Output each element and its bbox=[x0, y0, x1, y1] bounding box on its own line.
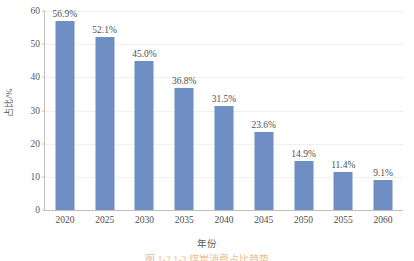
bar-group: 23.6%2045 bbox=[244, 11, 284, 210]
bar[interactable] bbox=[254, 132, 273, 210]
bar[interactable] bbox=[95, 37, 114, 210]
bar[interactable] bbox=[175, 88, 194, 210]
bar-value-label: 11.4% bbox=[331, 160, 355, 170]
y-tick-label: 60 bbox=[31, 6, 41, 16]
x-tick-label: 2030 bbox=[135, 215, 154, 225]
bar[interactable] bbox=[334, 172, 353, 210]
figure-caption: 图 1-2 1-3 煤炭消费占比趋势 bbox=[0, 253, 414, 261]
y-tick-label: 50 bbox=[31, 39, 41, 49]
x-axis-title: 年份 bbox=[0, 236, 414, 250]
bar-group: 9.1%2060 bbox=[363, 11, 403, 210]
bar-value-label: 45.0% bbox=[132, 49, 157, 59]
bar-group: 11.4%2055 bbox=[323, 11, 363, 210]
x-tick-label: 2055 bbox=[334, 215, 353, 225]
bar[interactable] bbox=[55, 21, 74, 210]
y-tick-label: 30 bbox=[31, 106, 41, 116]
y-tick-label: 10 bbox=[31, 172, 41, 182]
x-tick-label: 2025 bbox=[95, 215, 114, 225]
bar-value-label: 56.9% bbox=[53, 9, 78, 19]
bar-group: 56.9%2020 bbox=[45, 11, 85, 210]
bar-group: 14.9%2050 bbox=[284, 11, 324, 210]
bar-group: 45.0%2030 bbox=[125, 11, 165, 210]
bar[interactable] bbox=[294, 161, 313, 210]
x-tick-label: 2060 bbox=[374, 215, 393, 225]
bar-value-label: 9.1% bbox=[373, 168, 393, 178]
y-tick-label: 40 bbox=[31, 72, 41, 82]
bar-group: 31.5%2040 bbox=[204, 11, 244, 210]
chart-figure: 占比/% 010203040506056.9%202052.1%202545.0… bbox=[0, 0, 414, 261]
y-tick-label: 20 bbox=[31, 139, 41, 149]
bar[interactable] bbox=[214, 106, 233, 210]
bar-value-label: 23.6% bbox=[251, 120, 276, 130]
plot-area: 010203040506056.9%202052.1%202545.0%2030… bbox=[44, 11, 403, 211]
y-tick-label: 0 bbox=[35, 205, 40, 215]
x-tick-label: 2045 bbox=[254, 215, 273, 225]
bar-value-label: 14.9% bbox=[291, 149, 316, 159]
x-tick-label: 2035 bbox=[175, 215, 194, 225]
bar-value-label: 31.5% bbox=[212, 94, 237, 104]
bar-group: 36.8%2035 bbox=[164, 11, 204, 210]
x-tick-label: 2040 bbox=[214, 215, 233, 225]
bar-value-label: 52.1% bbox=[92, 25, 117, 35]
bar-value-label: 36.8% bbox=[172, 76, 197, 86]
bar[interactable] bbox=[374, 180, 393, 210]
bar[interactable] bbox=[135, 61, 154, 210]
x-tick-label: 2020 bbox=[55, 215, 74, 225]
y-axis-title: 占比/% bbox=[2, 73, 15, 133]
x-tick-label: 2050 bbox=[294, 215, 313, 225]
bar-group: 52.1%2025 bbox=[85, 11, 125, 210]
